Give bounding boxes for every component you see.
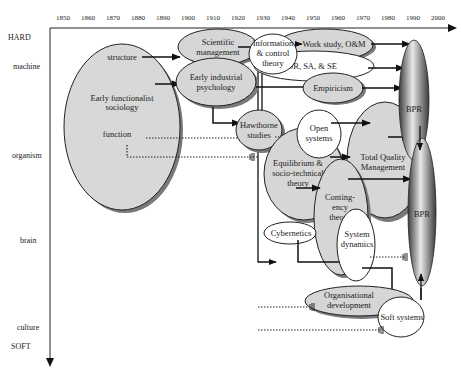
node-cybernetics: Cybernetics (264, 222, 316, 244)
svg-text:Management: Management (361, 162, 406, 172)
svg-text:Conting-: Conting- (325, 192, 355, 202)
svg-text:systems: systems (306, 133, 333, 143)
svg-text:Soft systems: Soft systems (380, 312, 423, 322)
y-level-brain: brain (20, 236, 36, 245)
structure-label: structure (107, 52, 137, 62)
node-bpr-lower: BPR (408, 138, 436, 286)
svg-text:development: development (327, 300, 372, 310)
year-label: 1880 (131, 14, 146, 22)
svg-text:System: System (344, 229, 369, 239)
svg-text:theory: theory (262, 58, 284, 68)
y-level-organism: organism (12, 151, 42, 160)
y-axis-hard-label: HARD (8, 33, 31, 42)
svg-text:Equilibrium &: Equilibrium & (273, 158, 323, 168)
node-early-functionalist-sociology: Early functionalist sociology structure … (64, 44, 183, 213)
svg-text:& control: & control (257, 48, 290, 58)
svg-text:management: management (196, 47, 240, 57)
svg-text:Empiricism: Empiricism (313, 83, 353, 93)
year-label: 1870 (106, 14, 121, 22)
year-label: 1980 (381, 14, 396, 22)
function-label: function (103, 129, 132, 139)
svg-text:sociology: sociology (105, 102, 139, 112)
svg-text:Total Quality: Total Quality (361, 152, 407, 162)
node-system-dynamics: System dynamics (337, 209, 375, 281)
year-label: 1850 (56, 14, 71, 22)
y-axis-soft-label: SOFT (11, 342, 31, 351)
node-open-systems: Open systems (297, 110, 341, 158)
x-axis-arrowhead-icon (448, 24, 457, 32)
svg-text:BPR: BPR (414, 209, 430, 219)
year-label: 1920 (231, 14, 246, 22)
svg-text:BPR: BPR (406, 104, 422, 114)
node-soft-systems: Soft systems (378, 297, 424, 337)
node-information-control-theory: Information & control theory (249, 34, 297, 74)
node-early-industrial-psychology: Early industrial psychology (176, 58, 259, 109)
svg-text:Work study, O&M: Work study, O&M (302, 39, 366, 49)
year-label: 1990 (406, 14, 421, 22)
node-empiricism: Empiricism (303, 73, 366, 105)
svg-text:theory: theory (287, 178, 309, 188)
year-label: 1910 (206, 14, 221, 22)
management-theories-diagram: 1850 1860 1870 1880 1890 1900 1910 1920 … (0, 0, 462, 369)
svg-text:Open: Open (310, 123, 329, 133)
year-label: 1860 (81, 14, 96, 22)
year-label: 1930 (256, 14, 271, 22)
svg-text:Scientific: Scientific (202, 37, 235, 47)
svg-text:Hawthorne: Hawthorne (240, 120, 278, 130)
svg-text:Early industrial: Early industrial (190, 72, 243, 82)
svg-text:Cybernetics: Cybernetics (271, 228, 312, 238)
svg-text:psychology: psychology (196, 82, 236, 92)
y-axis-arrowhead-icon (46, 358, 54, 367)
year-label: 2000 (431, 14, 446, 22)
x-axis-years: 1850 1860 1870 1880 1890 1900 1910 1920 … (56, 14, 446, 22)
svg-text:ency: ency (332, 202, 349, 212)
svg-text:socio-technical: socio-technical (272, 168, 324, 178)
svg-text:dynamics: dynamics (341, 239, 374, 249)
y-level-machine: machine (13, 62, 41, 71)
svg-text:Organisational: Organisational (324, 290, 375, 300)
year-label: 1900 (181, 14, 196, 22)
svg-text:Information: Information (253, 38, 294, 48)
y-level-culture: culture (17, 323, 40, 332)
year-label: 1890 (156, 14, 171, 22)
svg-text:studies: studies (247, 130, 271, 140)
year-label: 1960 (331, 14, 346, 22)
arrow-early-industrial-to-hawthorne (213, 107, 240, 123)
year-label: 1970 (356, 14, 371, 22)
year-label: 1940 (281, 14, 296, 22)
year-label: 1950 (306, 14, 321, 22)
